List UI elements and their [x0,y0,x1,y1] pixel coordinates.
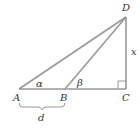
label-point-b: B [59,92,67,103]
triangle-diagram: D x α β A B C d [0,0,140,129]
label-length-d: d [38,112,44,123]
segment-bd [65,17,126,89]
label-point-d: D [121,2,130,13]
label-point-a: A [12,92,20,103]
brace-ab [19,103,65,110]
diagram-canvas: D x α β A B C d [0,0,140,129]
label-angle-beta: β [76,77,83,88]
label-point-c: C [122,92,130,103]
label-length-x: x [131,46,137,57]
right-angle-marker [118,81,126,89]
label-angle-alpha: α [36,78,43,89]
